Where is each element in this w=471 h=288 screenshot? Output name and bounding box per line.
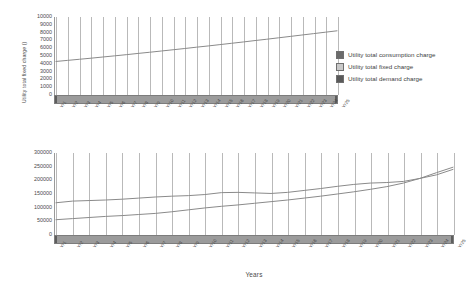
x-axis-tick-label: Yr25 (341, 106, 345, 109)
series-line (56, 31, 337, 62)
y-axis-tick-label: 1000 (26, 84, 52, 89)
x-axis-tick-label: Yr12 (188, 106, 192, 109)
y-axis-tick-label: 2000 (26, 77, 52, 82)
series-lines-bottom (55, 153, 454, 235)
x-axis-tick-label: Yr20 (282, 106, 286, 109)
x-axis-tick-label: Yr12 (241, 246, 245, 249)
x-axis-tick-label: Yr7 (159, 246, 163, 249)
legend-item-demand: Utility total demand charge (336, 73, 468, 84)
x-axis-tick-label: Yr17 (324, 246, 328, 249)
x-axis-tick-label: Yr24 (440, 246, 444, 249)
y-axis-tick-label: 50000 (24, 219, 52, 224)
legend-swatch-icon (336, 63, 344, 71)
x-axis-tick-label: Yr15 (291, 246, 295, 249)
figure: Utility total fixed charge () 0100020003… (0, 0, 471, 288)
plot-area-top (54, 17, 338, 95)
legend: Utility total consumption charge Utility… (336, 49, 468, 85)
x-axis-tick-label: Yr2 (76, 246, 80, 249)
x-axis-tick-label: Yr19 (358, 246, 362, 249)
x-axis-tick-label: Yr1 (59, 246, 63, 249)
y-axis-tick-label: 250000 (24, 164, 52, 169)
x-axis-tick-label: Yr3 (92, 246, 96, 249)
x-axis-title: Years (154, 271, 354, 278)
x-axis-tick-label: Yr5 (106, 106, 110, 109)
axis-cap-right-bottom (451, 236, 453, 243)
legend-item-consumption: Utility total consumption charge (336, 49, 468, 60)
x-axis-tick-label: Yr19 (271, 106, 275, 109)
x-axis-tick-label: Yr20 (374, 246, 378, 249)
x-axis-tick-label: Yr23 (318, 106, 322, 109)
x-axis-tick-label: Yr3 (83, 106, 87, 109)
y-axis-tick-label: 3000 (26, 69, 52, 74)
x-axis-tick-label: Yr22 (407, 246, 411, 249)
x-axis-tick-label: Yr4 (109, 246, 113, 249)
x-axis-tick-label: Yr7 (130, 106, 134, 109)
legend-swatch-icon (336, 75, 344, 83)
x-axis-tick-label: Yr15 (224, 106, 228, 109)
series-line (56, 169, 453, 202)
y-axis-tick-label: 10000 (26, 14, 52, 19)
x-axis-tick-label: Yr21 (391, 246, 395, 249)
chart-panel-bottom: 050000100000150000200000250000300000 Yr1… (0, 145, 471, 288)
x-axis-tick-label: Yr21 (294, 106, 298, 109)
x-axis-tick-label: Yr16 (235, 106, 239, 109)
x-axis-tick-label: Yr22 (306, 106, 310, 109)
x-axis-tick-label: Yr18 (341, 246, 345, 249)
x-axis-tick-label: Yr11 (177, 106, 181, 109)
y-axis-tick-label: 200000 (24, 178, 52, 183)
y-axis-tick-label: 5000 (26, 53, 52, 58)
plot-area-bottom (54, 153, 454, 235)
x-axis-tick-label: Yr2 (71, 106, 75, 109)
x-axis-tick-label: Yr16 (308, 246, 312, 249)
y-axis-tick-label: 300000 (24, 150, 52, 155)
x-axis-tick-label: Yr14 (275, 246, 279, 249)
y-axis-tick-label: 8000 (26, 30, 52, 35)
x-axis-tick-label: Yr1 (59, 106, 63, 109)
x-axis-tick-label: Yr25 (457, 246, 461, 249)
x-axis-tick-label: Yr11 (225, 246, 229, 249)
legend-item-label: Utility total consumption charge (348, 51, 436, 58)
y-axis-tick-label: 0 (26, 92, 52, 97)
x-axis-tick-label: Yr8 (141, 106, 145, 109)
x-axis-tick-label: Yr24 (329, 106, 333, 109)
legend-item-label: Utility total fixed charge (348, 63, 413, 70)
legend-item-label: Utility total demand charge (348, 75, 423, 82)
x-axis-tick-label: Yr13 (200, 106, 204, 109)
chart-panel-top: Utility total fixed charge () 0100020003… (0, 0, 340, 140)
x-axis-tick-label: Yr10 (208, 246, 212, 249)
x-axis-tick-label: Yr6 (118, 106, 122, 109)
x-axis-tick-label: Yr9 (153, 106, 157, 109)
x-axis-tick-label: Yr8 (175, 246, 179, 249)
y-axis-tick-label: 9000 (26, 22, 52, 27)
x-axis-tick-label: Yr13 (258, 246, 262, 249)
x-axis-tick-label: Yr9 (192, 246, 196, 249)
y-axis-tick-label: 150000 (24, 191, 52, 196)
y-axis-tick-label: 7000 (26, 38, 52, 43)
y-axis-tick-label: 0 (24, 232, 52, 237)
axis-cap-left-bottom (55, 236, 57, 243)
gridline (454, 153, 455, 235)
y-axis-tick-label: 4000 (26, 61, 52, 66)
x-axis-tick-label: Yr4 (94, 106, 98, 109)
x-axis-tick-label: Yr17 (247, 106, 251, 109)
legend-item-fixed: Utility total fixed charge (336, 61, 468, 72)
x-axis-tick-label: Yr23 (424, 246, 428, 249)
x-axis-tick-label: Yr10 (165, 106, 169, 109)
axis-cap-left-top (55, 96, 57, 103)
legend-swatch-icon (336, 51, 344, 59)
x-axis-tick-label: Yr18 (259, 106, 263, 109)
y-axis-tick-label: 100000 (24, 205, 52, 210)
series-line (56, 167, 453, 219)
x-axis-tick-label: Yr14 (212, 106, 216, 109)
x-axis-tick-label: Yr5 (125, 246, 129, 249)
series-lines-top (55, 17, 338, 95)
y-axis-tick-label: 6000 (26, 45, 52, 50)
x-axis-tick-label: Yr6 (142, 246, 146, 249)
